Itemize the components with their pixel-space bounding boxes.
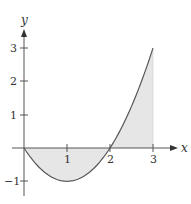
x-axis-arrow-icon bbox=[170, 145, 178, 151]
x-axis-label: x bbox=[181, 141, 188, 155]
y-axis-arrow-icon bbox=[21, 29, 27, 37]
x-tick-label-2: 2 bbox=[107, 153, 114, 166]
y-tick-label-1: 1 bbox=[10, 109, 17, 122]
y-axis-label: y bbox=[20, 13, 28, 27]
y-tick-label-minus1: −1 bbox=[4, 175, 20, 188]
x-tick-label-1: 1 bbox=[64, 153, 71, 166]
y-tick-label-2: 2 bbox=[10, 75, 17, 88]
x-tick-label-3: 3 bbox=[150, 153, 157, 166]
shaded-area bbox=[24, 48, 153, 181]
function-plot: 1 2 3 3 2 1 −1 x y bbox=[0, 0, 191, 204]
y-tick-label-3: 3 bbox=[10, 42, 17, 55]
